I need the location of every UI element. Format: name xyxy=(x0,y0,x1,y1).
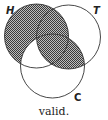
caption: valid. xyxy=(0,105,108,118)
venn-diagram: H T C xyxy=(0,0,108,105)
label-h: H xyxy=(6,5,15,16)
label-c: C xyxy=(74,92,81,103)
label-t: T xyxy=(93,5,101,16)
